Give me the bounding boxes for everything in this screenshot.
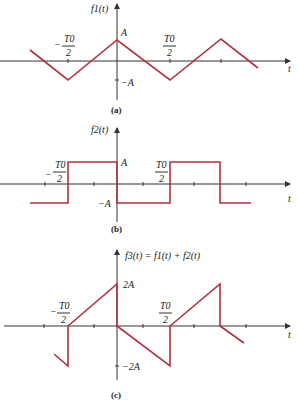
y-axis-label: f3(t) = f1(t) + f2(t) bbox=[125, 250, 201, 262]
tick-label-neg-half-period: − T0 2 bbox=[50, 300, 70, 325]
panel-b: f2(t) A −A t − T0 2 T0 2 (b) bbox=[0, 124, 291, 234]
level-neg-label: −A bbox=[121, 77, 135, 88]
y-axis-label: f2(t) bbox=[91, 124, 109, 136]
level-pos-label: A bbox=[120, 27, 128, 38]
svg-text:T0: T0 bbox=[55, 159, 66, 170]
svg-text:2: 2 bbox=[66, 47, 71, 58]
caption-a: (a) bbox=[111, 105, 122, 115]
svg-text:T0: T0 bbox=[156, 159, 167, 170]
svg-text:−: − bbox=[50, 306, 57, 317]
tick-label-pos-half-period: T0 2 bbox=[163, 33, 176, 58]
svg-text:T0: T0 bbox=[64, 33, 75, 44]
caption-b: (b) bbox=[111, 224, 122, 234]
svg-text:2: 2 bbox=[163, 314, 168, 325]
svg-text:2: 2 bbox=[57, 173, 62, 184]
level-neg-label: −A bbox=[98, 198, 112, 209]
level-neg-label: −2A bbox=[122, 361, 141, 372]
waveform-figure: f1(t) A −A t − T0 2 T0 2 (a) f2(t) A − bbox=[0, 0, 298, 406]
tick-label-neg-half-period: − T0 2 bbox=[54, 33, 75, 58]
svg-text:−: − bbox=[54, 39, 61, 50]
svg-text:T0: T0 bbox=[160, 300, 171, 311]
panel-c: f3(t) = f1(t) + f2(t) 2A −2A t − T0 2 T0… bbox=[4, 250, 291, 400]
tick-marks bbox=[44, 324, 246, 366]
tick-label-pos-half-period: T0 2 bbox=[155, 159, 168, 184]
svg-text:2: 2 bbox=[61, 314, 66, 325]
svg-text:2: 2 bbox=[167, 47, 172, 58]
y-axis-label: f1(t) bbox=[91, 3, 109, 15]
svg-text:T0: T0 bbox=[59, 300, 70, 311]
svg-text:T0: T0 bbox=[164, 33, 175, 44]
level-pos-label: 2A bbox=[123, 279, 135, 290]
svg-text:2: 2 bbox=[159, 173, 164, 184]
tick-label-neg-half-period: − T0 2 bbox=[45, 159, 66, 184]
t-label: t bbox=[288, 193, 291, 204]
tick-label-pos-half-period: T0 2 bbox=[159, 300, 172, 325]
triangle-wave bbox=[30, 39, 258, 80]
panel-a: f1(t) A −A t − T0 2 T0 2 (a) bbox=[0, 3, 291, 115]
caption-c: (c) bbox=[111, 390, 121, 400]
t-label: t bbox=[288, 329, 291, 340]
sawtooth-wave bbox=[54, 284, 244, 366]
svg-text:−: − bbox=[45, 169, 52, 180]
t-label: t bbox=[288, 63, 291, 74]
level-pos-label: A bbox=[120, 157, 128, 168]
